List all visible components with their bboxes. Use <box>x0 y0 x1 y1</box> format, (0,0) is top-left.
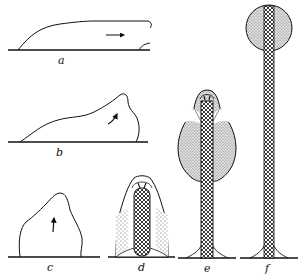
panel-label-a: a <box>58 55 65 66</box>
panel-label-c: c <box>47 262 53 273</box>
panel-label-d: d <box>138 262 145 273</box>
figure: a b c d e f <box>0 0 299 276</box>
arrow-up-icon <box>53 218 54 232</box>
developmental-stages-diagram <box>0 0 299 276</box>
panel-d <box>108 176 175 257</box>
panel-e <box>178 90 236 258</box>
panel-a <box>8 21 151 50</box>
panel-b <box>8 94 148 142</box>
arrow-curved-icon <box>108 114 117 124</box>
panel-label-b: b <box>56 147 63 158</box>
panel-label-f: f <box>265 263 269 274</box>
panel-label-e: e <box>204 263 211 274</box>
panel-f <box>240 5 298 258</box>
panel-c <box>8 193 100 257</box>
